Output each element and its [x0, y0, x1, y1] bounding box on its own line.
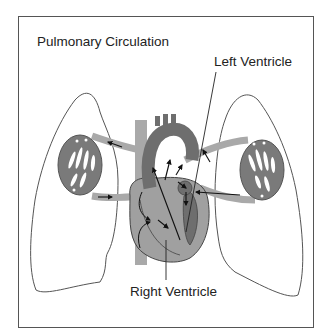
- left-pulmonary-artery: [92, 136, 140, 150]
- pulmonary-circulation-illustration: [0, 0, 324, 335]
